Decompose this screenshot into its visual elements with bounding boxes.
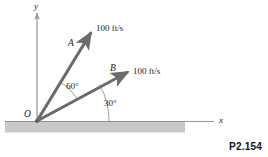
origin-label: O: [24, 110, 31, 120]
vector-a-label: A: [68, 39, 74, 49]
figure-caption: P2.154: [229, 141, 262, 152]
angle-60-label: 60°: [66, 82, 79, 91]
y-axis-label: y: [34, 2, 38, 11]
vector-a-magnitude-label: 100 ft/s: [96, 24, 123, 33]
vector-b-label: B: [110, 64, 116, 74]
vector-b-magnitude-label: 100 ft/s: [133, 67, 160, 76]
figure-container: y x O A 100 ft/s B 100 ft/s 60° 30° P2.1…: [0, 0, 268, 157]
ground-band: [5, 122, 185, 133]
vector-diagram: [0, 0, 268, 157]
origin-point: [35, 119, 39, 123]
x-axis-label: x: [219, 116, 223, 125]
angle-30-label: 30°: [104, 99, 117, 108]
